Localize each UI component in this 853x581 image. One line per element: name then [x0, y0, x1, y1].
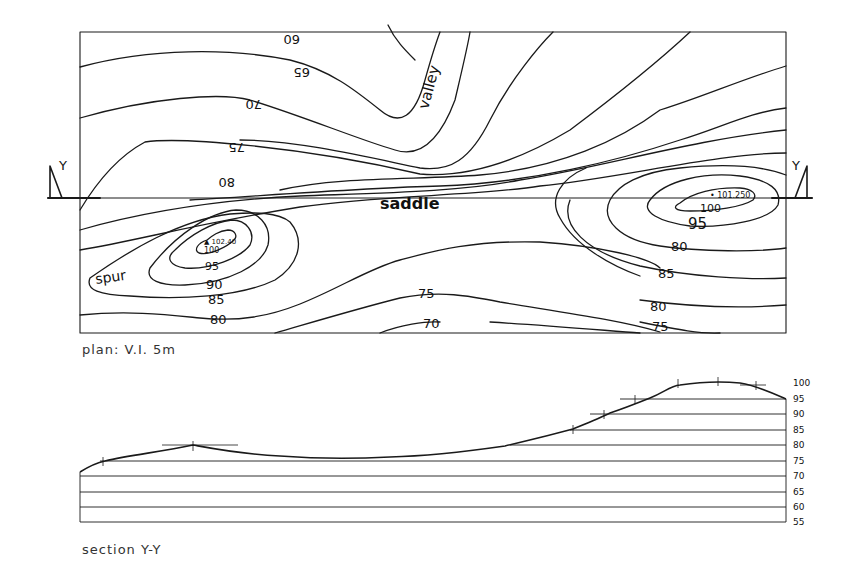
contour-label: 65 [293, 65, 310, 80]
feature-spur-label: spur [94, 267, 127, 287]
contour-label: 75 [228, 140, 245, 155]
level-label: 100 [793, 378, 810, 388]
plan-labels: valley saddle spur ▲ 102.40 • 101.250 60… [58, 32, 800, 334]
contour-label: 60 [283, 32, 300, 47]
contour-label: 100 [204, 246, 219, 255]
contour-label: 75 [652, 319, 669, 334]
level-label: 90 [793, 409, 805, 419]
feature-valley-label: valley [414, 63, 443, 111]
spot-height-right: • 101.250 [710, 191, 750, 200]
contour-label: 80 [218, 175, 235, 190]
y-label-left: Y [58, 158, 67, 173]
contour-label: 90 [206, 277, 223, 292]
level-label: 80 [793, 440, 805, 450]
contour-label: 85 [658, 266, 675, 281]
level-label: 75 [793, 456, 804, 466]
contour-label: 80 [650, 299, 667, 314]
contour-label: 100 [700, 202, 721, 215]
contour-label: 85 [208, 292, 225, 307]
contour-label: 75 [418, 286, 435, 301]
section-caption: section Y-Y [82, 542, 161, 557]
level-label: 70 [793, 471, 805, 481]
plan-caption: plan: V.I. 5m [82, 342, 176, 357]
contour-label: 80 [671, 239, 688, 254]
ground-profile [80, 382, 786, 472]
level-label: 65 [793, 487, 804, 497]
section-level-lines [80, 383, 786, 522]
level-label: 85 [793, 425, 804, 435]
contour-label: 95 [205, 260, 219, 273]
section-level-labels: 100 95 90 85 80 75 70 65 60 55 [793, 378, 810, 527]
level-label: 60 [793, 502, 805, 512]
contour-label: 95 [688, 215, 707, 233]
contour-label: 80 [210, 312, 227, 327]
contour-label: 70 [423, 316, 440, 331]
level-label: 55 [793, 517, 804, 527]
feature-saddle-label: saddle [380, 194, 440, 213]
section-yy [80, 377, 786, 522]
spot-height-left: ▲ 102.40 [204, 238, 236, 246]
contours-valley [80, 25, 786, 250]
contour-label: 70 [245, 97, 262, 112]
level-label: 95 [793, 394, 804, 404]
y-label-right: Y [791, 158, 800, 173]
topographic-diagram: valley saddle spur ▲ 102.40 • 101.250 60… [0, 0, 853, 581]
